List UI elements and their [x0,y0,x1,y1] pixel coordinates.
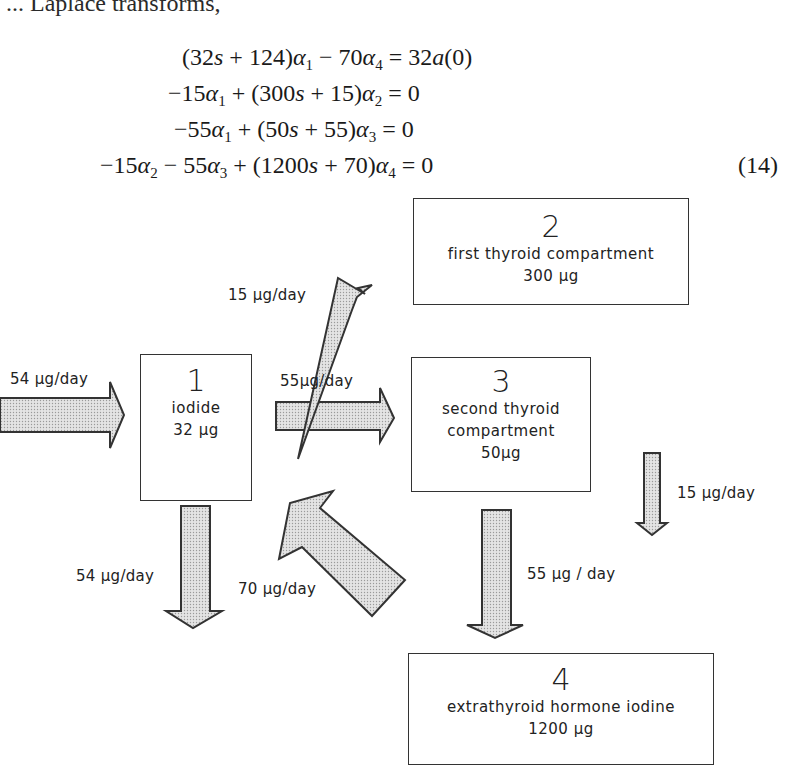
arrow-2-to-4-icon [637,453,667,535]
compartment-3-number: 3 [412,366,590,398]
compartment-3: 3 second thyroid compartment 50µg [411,357,591,492]
compartment-3-name-line2: compartment [412,420,590,442]
compartment-3-amount: 50µg [412,442,590,464]
flow-label-1-to-3: 55µg/day [280,372,353,390]
compartment-1-number: 1 [141,365,251,397]
flow-label-4-to-1: 70 µg/day [238,580,316,598]
arrow-3-to-4-icon [467,510,523,638]
compartment-3-name: second thyroid [412,398,590,420]
compartment-4-name: extrathyroid hormone iodine [409,696,713,718]
compartment-2-amount: 300 µg [414,265,688,287]
compartment-4: 4 extrathyroid hormone iodine 1200 µg [408,653,714,765]
flow-label-3-to-4: 55 µg / day [527,565,615,583]
flow-label-2-to-4: 15 µg/day [677,484,755,502]
compartment-4-number: 4 [409,664,713,696]
flow-label-outflow: 54 µg/day [76,567,154,585]
compartment-1-name: iodide [141,397,251,419]
flow-label-1-to-2: 15 µg/day [228,286,306,304]
compartment-2-number: 2 [414,211,688,243]
compartment-4-amount: 1200 µg [409,718,713,740]
arrow-inflow-icon [0,382,124,448]
compartment-2-name: first thyroid compartment [414,243,688,265]
arrow-1-to-2-icon [298,278,372,459]
arrow-outflow-icon [166,506,222,628]
compartment-1-amount: 32 µg [141,419,251,441]
flow-label-inflow: 54 µg/day [10,370,88,388]
compartment-2: 2 first thyroid compartment 300 µg [413,198,689,305]
arrow-1-to-3-icon [276,388,394,442]
compartment-1: 1 iodide 32 µg [140,354,252,501]
